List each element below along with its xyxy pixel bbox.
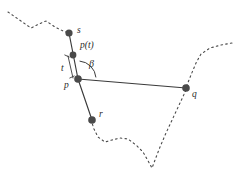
t-measure-tick-top [65,55,69,57]
label-t: t [61,64,64,74]
segment-p-to-r [78,79,92,120]
label-r: r [99,110,103,120]
segment-p-to-q [78,79,186,88]
label-p: p [64,81,69,91]
point-pt [70,52,77,59]
boundary-lower-dotted [92,90,186,168]
t-measure-line [68,56,73,78]
label-beta: β [89,59,94,69]
dotted-boundary-group [8,12,232,168]
point-s [65,29,72,36]
point-p [74,75,82,83]
label-p-of-t: p(t) [80,41,94,51]
figure-canvas [0,0,238,174]
t-measure-tick-bottom [70,76,74,78]
t-measure-bar [65,55,74,78]
boundary-right-upper-dotted [187,43,232,85]
boundary-left-dotted [8,12,69,33]
label-s: s [77,26,81,36]
point-q [182,84,190,92]
geometry-figure: s p(t) t β p q r [0,0,238,174]
label-q: q [192,90,197,100]
point-r [88,116,96,124]
